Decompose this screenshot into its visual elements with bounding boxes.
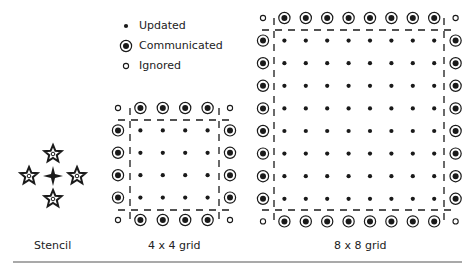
updated-dot (161, 173, 165, 177)
updated-dot (347, 129, 351, 133)
communicated-dot (279, 216, 290, 227)
communicated-dot (112, 147, 123, 158)
updated-dot (138, 196, 142, 200)
stencil-center-icon (43, 166, 63, 186)
ignored-dot (453, 219, 458, 224)
communicated-dot (257, 103, 268, 114)
updated-dot (432, 61, 436, 65)
updated-dot (368, 174, 372, 178)
updated-dot (325, 174, 329, 178)
updated-dot (304, 129, 308, 133)
communicated-dot (180, 102, 191, 113)
updated-dot (389, 84, 393, 88)
updated-dot (389, 129, 393, 133)
communicated-dot (300, 12, 311, 23)
communicated-dot (112, 170, 123, 181)
updated-dot (411, 129, 415, 133)
updated-dot (389, 174, 393, 178)
updated-dot (347, 152, 351, 156)
updated-dot (282, 129, 286, 133)
ignored-dot (115, 105, 120, 110)
communicated-dot (343, 216, 354, 227)
updated-dot (411, 197, 415, 201)
updated-dot (432, 174, 436, 178)
communicated-dot (202, 102, 213, 113)
communicated-dot (135, 102, 146, 113)
updated-dot (183, 128, 187, 132)
communicated-dot (429, 12, 440, 23)
updated-dot (325, 152, 329, 156)
updated-dot (206, 196, 210, 200)
updated-dot (411, 84, 415, 88)
updated-dot (411, 61, 415, 65)
communicated-dot (257, 125, 268, 136)
communicated-dot (386, 12, 397, 23)
communicated-dot (224, 147, 235, 158)
updated-dot (206, 151, 210, 155)
updated-dot (325, 84, 329, 88)
communicated-dot (450, 193, 461, 204)
updated-dot (432, 106, 436, 110)
updated-dot (432, 152, 436, 156)
communicated-dot (322, 12, 333, 23)
legend-label-ignored: Ignored (139, 59, 181, 72)
communicated-dot (120, 40, 131, 51)
updated-dot (389, 197, 393, 201)
grid-8x8 (257, 12, 461, 227)
legend-label-communicated: Communicated (139, 39, 223, 52)
communicated-dot (279, 12, 290, 23)
updated-dot (432, 84, 436, 88)
grid-8x8-label: 8 x 8 grid (334, 239, 387, 252)
updated-dot (347, 61, 351, 65)
communicated-dot (157, 214, 168, 225)
updated-dot (304, 84, 308, 88)
updated-dot (347, 197, 351, 201)
communicated-dot (386, 216, 397, 227)
updated-dot (183, 196, 187, 200)
updated-dot (304, 197, 308, 201)
updated-dot (368, 197, 372, 201)
communicated-dot (450, 80, 461, 91)
updated-dot (368, 152, 372, 156)
updated-dot (389, 152, 393, 156)
updated-dot (282, 39, 286, 43)
updated-dot (325, 197, 329, 201)
updated-dot (368, 39, 372, 43)
updated-dot (389, 61, 393, 65)
grid-4x4 (112, 102, 235, 225)
updated-dot (347, 174, 351, 178)
updated-dot (368, 129, 372, 133)
ignored-dot (260, 219, 265, 224)
stencil-star-icon (44, 145, 61, 161)
communicated-dot (257, 171, 268, 182)
updated-dot (432, 129, 436, 133)
stencil-label: Stencil (34, 239, 71, 252)
communicated-dot (257, 58, 268, 69)
updated-dot (411, 106, 415, 110)
ignored-dot (453, 15, 458, 20)
updated-dot (282, 197, 286, 201)
updated-dot (304, 174, 308, 178)
updated-dot (325, 39, 329, 43)
communicated-dot (112, 125, 123, 136)
communicated-dot (450, 58, 461, 69)
updated-dot (347, 106, 351, 110)
communicated-dot (450, 103, 461, 114)
stencil-star-icon (44, 190, 61, 206)
communicated-dot (429, 216, 440, 227)
updated-dot (183, 151, 187, 155)
updated-dot (325, 129, 329, 133)
communicated-dot (407, 12, 418, 23)
communicated-dot (343, 12, 354, 23)
legend-label-updated: Updated (139, 19, 186, 32)
grid-4x4-label: 4 x 4 grid (148, 239, 201, 252)
communicated-dot (157, 102, 168, 113)
updated-dot (304, 61, 308, 65)
updated-dot (138, 173, 142, 177)
communicated-dot (180, 214, 191, 225)
updated-dot (368, 106, 372, 110)
updated-dot (282, 106, 286, 110)
ignored-dot (123, 63, 128, 68)
ignored-dot (115, 217, 120, 222)
communicated-dot (224, 192, 235, 203)
